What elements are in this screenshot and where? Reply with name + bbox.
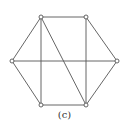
edge-R-BR [86, 61, 117, 105]
vertex-BL [39, 103, 43, 107]
edge-L-TL [12, 17, 41, 61]
figure-caption: (c) [0, 109, 129, 120]
vertex-R [115, 59, 119, 63]
vertex-TR [84, 15, 88, 19]
graph-diagram [0, 0, 129, 123]
vertex-L [10, 59, 14, 63]
edge-TR-R [86, 17, 117, 61]
vertex-TL [39, 15, 43, 19]
graph-edges [12, 17, 117, 105]
edge-BL-L [12, 61, 41, 105]
vertex-BR [84, 103, 88, 107]
